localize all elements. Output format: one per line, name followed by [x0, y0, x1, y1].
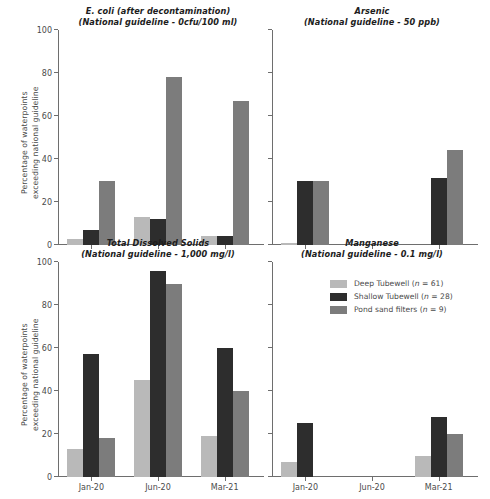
panel-title-main: Manganese [345, 238, 399, 248]
y-axis-label-top: Percentage of waterpoints exceeding nati… [20, 62, 41, 224]
y-axis-tick-label: 20 [42, 198, 52, 207]
x-axis-tick-label: Jan-20 [79, 483, 104, 492]
legend-swatch-icon [330, 293, 347, 301]
y-axis-tick [54, 72, 58, 73]
x-axis-tick-label: Jan-20 [293, 483, 318, 492]
y-axis-tick [54, 115, 58, 116]
x-axis-tick [91, 477, 92, 481]
figure-water-quality-panels: Percentage of waterpoints exceeding nati… [0, 0, 490, 499]
y-axis-tick [268, 476, 272, 477]
bar [233, 101, 249, 245]
plot-area: 020406080100Jan-20Jun-20Mar-21 [58, 262, 258, 477]
panel-title-main: E. coli (after decontamination) [86, 6, 231, 16]
y-axis-tick [268, 261, 272, 262]
y-axis-tick [268, 201, 272, 202]
y-axis-tick [268, 433, 272, 434]
legend-item: Shallow Tubewell (n = 28) [330, 291, 453, 303]
y-axis-tick [54, 201, 58, 202]
bar [67, 449, 83, 477]
y-axis-tick [268, 304, 272, 305]
y-axis-tick [54, 347, 58, 348]
y-axis-tick-label: 0 [47, 473, 52, 482]
bar [217, 348, 233, 477]
y-axis-tick [54, 29, 58, 30]
bar [99, 181, 115, 246]
plot-area: 020406080100 [58, 30, 258, 245]
y-axis-tick-label: 80 [42, 69, 52, 78]
y-axis-tick-label: 80 [42, 301, 52, 310]
panel-title-main: Total Dissolved Solids [107, 238, 210, 248]
y-axis-label-line1: Percentage of waterpoints [20, 62, 31, 224]
y-axis-tick-label: 60 [42, 344, 52, 353]
y-axis-tick [268, 72, 272, 73]
y-axis-label-bottom: Percentage of waterpoints exceeding nati… [20, 294, 41, 456]
bar [83, 354, 99, 477]
legend-item: Deep Tubewell (n = 61) [330, 278, 453, 290]
bar [297, 181, 313, 246]
panel-title: Manganese(National guideline - 0.1 mg/l) [246, 238, 490, 259]
bar [447, 434, 463, 477]
y-axis-tick [54, 261, 58, 262]
x-axis-tick [439, 477, 440, 481]
bar [415, 456, 431, 478]
x-axis-tick [305, 477, 306, 481]
panel-title: Arsenic(National guideline - 50 ppb) [246, 6, 490, 27]
y-axis-label-line1: Percentage of waterpoints [20, 294, 31, 456]
legend-swatch-icon [330, 306, 347, 314]
y-axis-tick [268, 390, 272, 391]
legend-item: Pond sand filters (n = 9) [330, 304, 453, 316]
x-axis-tick [372, 477, 373, 481]
legend-item-label: Deep Tubewell (n = 61) [354, 280, 443, 288]
y-axis-tick [54, 476, 58, 477]
legend-swatch-icon [330, 280, 347, 288]
y-axis-tick [54, 158, 58, 159]
x-axis-tick-label: Jun-20 [145, 483, 171, 492]
y-axis-tick [268, 29, 272, 30]
bar [447, 150, 463, 245]
panel-e-coli: E. coli (after decontamination)(National… [58, 30, 258, 245]
panel-title-main: Arsenic [355, 6, 390, 16]
y-axis-tick [268, 158, 272, 159]
bar [431, 417, 447, 477]
y-axis-tick-label: 20 [42, 430, 52, 439]
y-axis-line [58, 262, 59, 477]
panel-title-subtitle: (National guideline - 50 ppb) [246, 17, 490, 28]
legend: Deep Tubewell (n = 61)Shallow Tubewell (… [330, 278, 453, 317]
y-axis-tick-label: 40 [42, 155, 52, 164]
y-axis-tick-label: 60 [42, 112, 52, 121]
y-axis-tick [268, 115, 272, 116]
x-axis-tick-label: Jun-20 [359, 483, 385, 492]
bar [166, 77, 182, 245]
y-axis-label-line2: exceeding national guideline [31, 294, 42, 456]
y-axis-tick [54, 433, 58, 434]
x-axis-tick-label: Mar-21 [211, 483, 239, 492]
y-axis-line [272, 30, 273, 245]
y-axis-tick [54, 390, 58, 391]
x-axis-tick [158, 477, 159, 481]
legend-item-label: Shallow Tubewell (n = 28) [354, 293, 453, 301]
x-axis-tick [225, 477, 226, 481]
y-axis-tick-label: 100 [37, 26, 52, 35]
y-axis-tick [268, 347, 272, 348]
bar [201, 436, 217, 477]
bar [297, 423, 313, 477]
panel-total-dissolved-solids: Total Dissolved Solids(National guidelin… [58, 262, 258, 477]
bar [99, 438, 115, 477]
bar [150, 271, 166, 477]
plot-area [272, 30, 472, 245]
bar [166, 284, 182, 478]
panel-title-subtitle: (National guideline - 0.1 mg/l) [246, 249, 490, 260]
y-axis-label-line2: exceeding national guideline [31, 62, 42, 224]
legend-item-label: Pond sand filters (n = 9) [354, 306, 446, 314]
y-axis-line [272, 262, 273, 477]
y-axis-tick [54, 304, 58, 305]
bar [431, 178, 447, 245]
y-axis-tick-label: 100 [37, 258, 52, 267]
bar [134, 380, 150, 477]
bar [313, 181, 329, 246]
panel-arsenic: Arsenic(National guideline - 50 ppb) [272, 30, 472, 245]
x-axis-tick-label: Mar-21 [425, 483, 453, 492]
y-axis-tick-label: 40 [42, 387, 52, 396]
bar [281, 462, 297, 477]
bar [233, 391, 249, 477]
